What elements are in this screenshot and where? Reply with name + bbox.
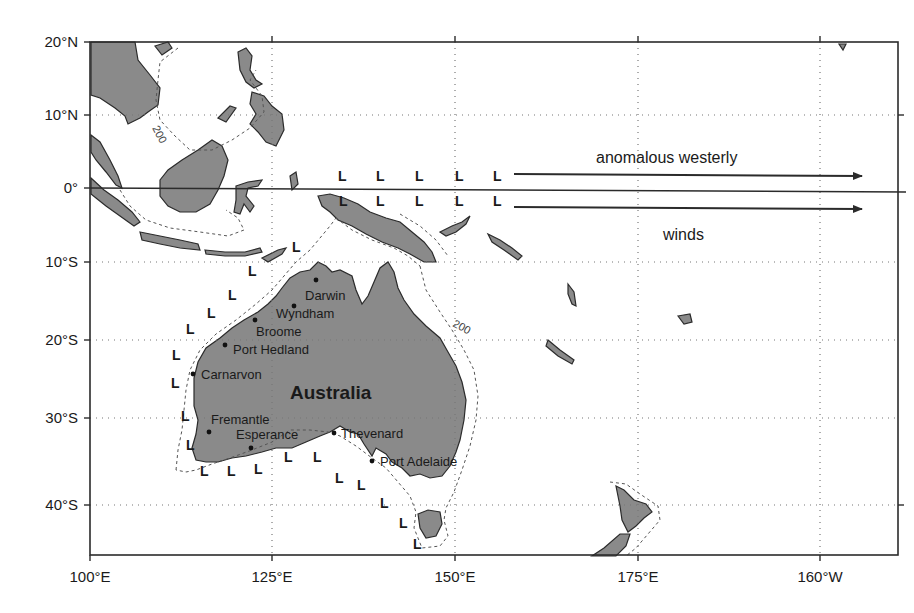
annotation-line1: anomalous westerly: [596, 149, 737, 166]
land-lesser-sunda: [205, 248, 262, 256]
land-solomons: [488, 234, 522, 260]
city-label-thevenard: Thevenard: [341, 426, 403, 441]
city-label-carnarvon: Carnarvon: [201, 367, 262, 382]
low-marker: L: [292, 239, 301, 255]
low-marker: L: [399, 515, 408, 531]
land-island-ne: [839, 44, 846, 50]
low-marker: L: [493, 168, 502, 184]
x-tick-150e: 150°E: [434, 568, 475, 585]
annotation-line2: winds: [662, 226, 704, 243]
arrow-upper: [514, 174, 862, 176]
y-tick-20s: 20°S: [45, 331, 78, 348]
low-marker: L: [200, 463, 209, 479]
low-marker: L: [284, 449, 293, 465]
land-hainan: [155, 42, 172, 55]
city-label-port-adelaide: Port Adelaide: [380, 454, 457, 469]
low-marker: L: [186, 437, 195, 453]
land-java: [140, 232, 200, 250]
low-marker: L: [338, 168, 347, 184]
country-label-australia: Australia: [290, 382, 372, 403]
land-mindanao: [250, 92, 284, 146]
city-label-broome: Broome: [256, 324, 302, 339]
y-tick-30s: 30°S: [45, 409, 78, 426]
land-borneo: [160, 140, 228, 212]
low-marker: L: [376, 193, 385, 209]
city-dot-carnarvon: [191, 372, 196, 377]
y-tick-10s: 10°S: [45, 253, 78, 270]
low-marker: L: [254, 461, 263, 477]
city-dot-esperance: [249, 446, 254, 451]
y-tick-0: 0°: [64, 179, 78, 196]
low-marker: L: [172, 347, 181, 363]
land-indochina: [91, 42, 160, 124]
low-marker: L: [380, 495, 389, 511]
land-malay-peninsula: [91, 135, 122, 188]
land-tasmania: [418, 510, 442, 538]
y-axis-labels: 20°N 10°N 0° 10°S 20°S 30°S 40°S: [44, 33, 78, 513]
land-halmahera: [290, 172, 298, 190]
x-tick-175e: 175°E: [617, 568, 658, 585]
x-axis-labels: 100°E 125°E 150°E 175°E 160°W: [69, 568, 843, 585]
land-new-caledonia: [546, 340, 574, 364]
city-label-port-hedland: Port Hedland: [233, 342, 309, 357]
low-marker: L: [186, 321, 195, 337]
graticule: [90, 42, 898, 555]
low-marker: L: [376, 168, 385, 184]
city-dot-darwin: [314, 278, 319, 283]
y-tick-10n: 10°N: [44, 106, 78, 123]
x-tick-125e: 125°E: [251, 568, 292, 585]
city-dot-fremantle: [207, 430, 212, 435]
low-marker: L: [493, 193, 502, 209]
x-tick-160w: 160°W: [797, 568, 843, 585]
low-marker: L: [228, 287, 237, 303]
land-nz-north: [616, 486, 652, 532]
land-palawan: [218, 106, 236, 122]
low-marker: L: [227, 463, 236, 479]
isobath-label-qld: 200: [451, 317, 473, 336]
low-marker: L: [339, 193, 348, 209]
low-marker: L: [335, 470, 344, 486]
city-dot-port-adelaide: [370, 459, 375, 464]
city-label-wyndham: Wyndham: [276, 306, 334, 321]
city-dot-port-hedland: [223, 343, 228, 348]
y-tick-40s: 40°S: [45, 496, 78, 513]
land-nz-south: [592, 534, 630, 556]
low-marker: L: [415, 193, 424, 209]
city-label-fremantle: Fremantle: [211, 412, 270, 427]
y-tick-20n: 20°N: [44, 33, 78, 50]
low-marker: L: [455, 193, 464, 209]
low-marker: L: [181, 408, 190, 424]
low-marker: L: [413, 536, 422, 552]
city-dot-thevenard: [332, 431, 337, 436]
low-marker: L: [455, 168, 464, 184]
low-marker: L: [313, 449, 322, 465]
map-figure: 20°N 10°N 0° 10°S 20°S 30°S 40°S 100°E 1…: [0, 0, 914, 613]
low-marker: L: [357, 477, 366, 493]
land-new-britain: [440, 216, 470, 236]
map-frame: [90, 42, 898, 555]
low-marker: L: [415, 168, 424, 184]
low-marker: L: [171, 375, 180, 391]
low-marker: L: [207, 305, 216, 321]
x-tick-100e: 100°E: [69, 568, 110, 585]
land-luzon: [238, 48, 262, 88]
city-label-darwin: Darwin: [305, 288, 345, 303]
land-vanuatu: [568, 284, 576, 306]
land-fiji: [678, 314, 692, 324]
city-label-esperance: Esperance: [236, 427, 298, 442]
land-sulawesi: [234, 180, 262, 214]
low-marker: L: [248, 263, 257, 279]
arrow-lower: [514, 207, 862, 209]
land-timor: [262, 248, 286, 262]
city-dot-broome: [253, 318, 258, 323]
